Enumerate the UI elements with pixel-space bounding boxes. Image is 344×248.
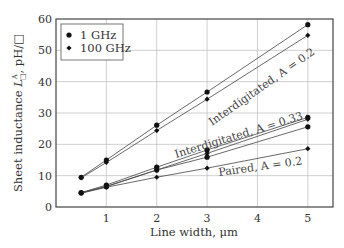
y-axis-ticks: 0102030405060 [38, 13, 52, 214]
x-tick-label: 3 [204, 212, 211, 225]
y-tick-label: 40 [38, 76, 52, 89]
x-axis-label: Line width, μm [150, 225, 238, 239]
y-axis-label: Sheet inductance LA□, pH/□ [11, 34, 27, 192]
line-chart: 12345 0102030405060 Interdigitated, A = … [0, 0, 344, 248]
data-point-diamond [154, 128, 159, 133]
data-point-circle [305, 22, 310, 27]
x-tick-label: 4 [254, 212, 261, 225]
data-point-circle [204, 155, 209, 160]
x-tick-label: 1 [103, 212, 110, 225]
y-tick-label: 60 [38, 13, 52, 26]
legend: 1 GHz 100 GHz [61, 24, 131, 60]
circle-marker-icon [66, 32, 71, 37]
data-point-circle [154, 123, 159, 128]
y-tick-label: 0 [45, 201, 52, 214]
legend-label-1ghz: 1 GHz [80, 28, 116, 42]
y-tick-label: 50 [38, 44, 52, 57]
x-tick-label: 5 [304, 212, 311, 225]
legend-label-100ghz: 100 GHz [80, 41, 131, 55]
data-point-circle [204, 89, 209, 94]
data-point-circle [305, 124, 310, 129]
y-tick-label: 30 [38, 107, 52, 120]
data-point-diamond [305, 146, 310, 151]
data-point-diamond [305, 33, 310, 38]
y-tick-label: 10 [38, 170, 52, 183]
data-point-circle [154, 167, 159, 172]
x-tick-label: 2 [153, 212, 160, 225]
x-axis-ticks: 12345 [103, 212, 311, 225]
data-point-diamond [204, 97, 209, 102]
y-tick-label: 20 [38, 138, 52, 151]
data-point-diamond [204, 166, 209, 171]
